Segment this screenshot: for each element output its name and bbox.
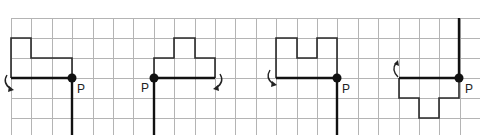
point-p-4 xyxy=(455,74,464,83)
panel-4: P xyxy=(394,18,473,118)
grid xyxy=(11,18,480,135)
point-label-2: P xyxy=(141,81,149,95)
point-label-3: P xyxy=(342,82,350,96)
point-label-1: P xyxy=(77,82,85,96)
point-p-3 xyxy=(333,74,342,83)
point-p-2 xyxy=(150,74,159,83)
point-label-4: P xyxy=(465,82,473,96)
point-p-1 xyxy=(68,74,77,83)
panel-1: P xyxy=(5,38,85,135)
rotation-arrow-icon-2 xyxy=(216,74,222,88)
panel-3: P xyxy=(268,38,350,135)
rotation-arrow-icon-1 xyxy=(5,75,11,89)
panel-2: P xyxy=(141,38,222,135)
rotation-diagram: P P P P xyxy=(0,0,480,135)
